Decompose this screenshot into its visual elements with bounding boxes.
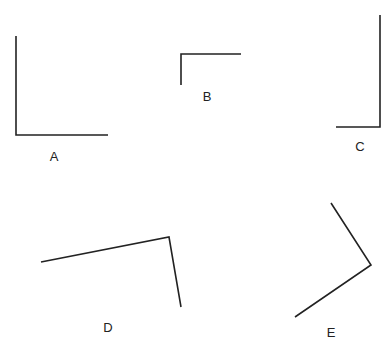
angles-diagram: [0, 0, 390, 344]
angle-b-label: B: [203, 89, 212, 104]
angle-e-label: E: [327, 325, 336, 340]
angle-b: [181, 54, 241, 85]
angle-c: [336, 15, 380, 127]
angle-d-label: D: [103, 320, 112, 335]
angle-a: [16, 36, 108, 135]
angle-a-label: A: [50, 149, 59, 164]
angle-c-label: C: [355, 139, 364, 154]
angle-d: [41, 237, 181, 307]
angle-e: [295, 203, 371, 317]
